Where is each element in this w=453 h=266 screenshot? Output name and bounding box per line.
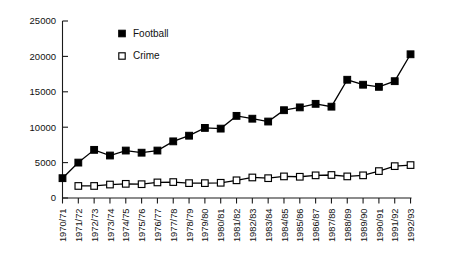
data-point-marker: [75, 159, 82, 166]
data-point-marker: [360, 172, 367, 179]
data-point-marker: [376, 168, 383, 175]
x-tick-label: 1971/72: [74, 209, 84, 243]
data-point-marker: [107, 181, 114, 188]
x-tick-label: 1979/80: [200, 209, 210, 243]
data-point-marker: [91, 183, 98, 190]
x-tick-label: 1975/76: [137, 209, 147, 243]
chart-container: 0500010000150002000025000 1970/711971/72…: [0, 0, 453, 266]
data-point-marker: [296, 104, 303, 111]
data-point-marker: [186, 132, 193, 139]
data-point-marker: [233, 112, 240, 119]
data-point-marker: [249, 174, 256, 181]
data-point-marker: [328, 172, 335, 179]
data-point-marker: [59, 175, 66, 182]
data-point-marker: [407, 51, 414, 58]
x-tick-label: 1981/82: [232, 209, 242, 243]
data-point-marker: [75, 183, 82, 190]
data-point-marker: [202, 180, 209, 187]
y-tick-label: 0: [51, 192, 56, 203]
data-point-marker: [249, 115, 256, 122]
data-point-marker: [154, 147, 161, 154]
data-point-marker: [344, 76, 351, 83]
data-point-marker: [154, 179, 161, 186]
data-point-marker: [360, 81, 367, 88]
x-tick-label: 1992/93: [406, 209, 416, 243]
legend-label-football: Football: [133, 28, 169, 39]
x-tick-label: 1977/78: [169, 209, 179, 243]
legend-marker-crime: [119, 53, 125, 59]
x-tick-label: 1976/77: [153, 209, 163, 243]
x-tick-label: 1991/92: [390, 209, 400, 243]
line-chart: 0500010000150002000025000 1970/711971/72…: [0, 0, 453, 266]
y-tick-label: 10000: [30, 122, 56, 133]
x-tick-label: 1972/73: [90, 209, 100, 243]
x-tick-label: 1985/86: [295, 209, 305, 243]
data-point-marker: [138, 149, 145, 156]
x-tick-label: 1978/79: [185, 209, 195, 243]
data-point-marker: [170, 179, 177, 186]
x-tick-label: 1986/87: [311, 209, 321, 243]
x-tick-label: 1973/74: [106, 209, 116, 243]
legend-label-crime: Crime: [133, 50, 160, 61]
y-tick-label: 20000: [30, 51, 56, 62]
data-point-marker: [186, 180, 193, 187]
y-tick-label: 25000: [30, 15, 56, 26]
data-point-marker: [122, 147, 129, 154]
x-tick-label: 1987/88: [327, 209, 337, 243]
x-tick-label: 1970/71: [58, 209, 68, 243]
data-point-marker: [391, 78, 398, 85]
data-point-marker: [122, 181, 129, 188]
x-tick-label: 1990/91: [375, 209, 385, 243]
x-tick-label: 1983/84: [264, 209, 274, 243]
data-point-marker: [233, 177, 240, 184]
data-point-marker: [138, 181, 145, 188]
data-point-marker: [107, 152, 114, 159]
data-point-marker: [391, 163, 398, 170]
data-point-marker: [91, 146, 98, 153]
data-point-marker: [312, 100, 319, 107]
data-point-marker: [201, 125, 208, 132]
legend-marker-football: [119, 30, 126, 37]
data-point-marker: [170, 138, 177, 145]
data-point-marker: [344, 173, 351, 180]
x-tick-label: 1989/90: [359, 209, 369, 243]
x-tick-label: 1974/75: [121, 209, 131, 243]
data-point-marker: [265, 175, 272, 182]
data-point-marker: [297, 173, 304, 180]
data-point-marker: [376, 83, 383, 90]
data-point-marker: [281, 173, 288, 180]
y-tick-label: 5000: [35, 157, 56, 168]
data-point-marker: [328, 103, 335, 110]
y-tick-label: 15000: [30, 86, 56, 97]
data-point-marker: [217, 179, 224, 186]
data-point-marker: [312, 172, 319, 179]
data-point-marker: [407, 162, 414, 169]
data-point-marker: [265, 118, 272, 125]
data-point-marker: [217, 125, 224, 132]
x-tick-label: 1982/83: [248, 209, 258, 243]
x-tick-label: 1984/85: [280, 209, 290, 243]
x-tick-label: 1988/89: [343, 209, 353, 243]
x-tick-label: 1980/81: [216, 209, 226, 243]
data-point-marker: [281, 107, 288, 114]
